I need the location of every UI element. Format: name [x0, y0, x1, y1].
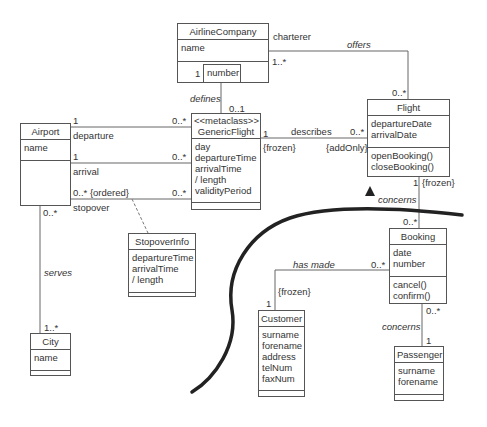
mult-company-defines: 1	[195, 68, 200, 79]
attribute: departureTime	[132, 252, 192, 263]
operation: confirm()	[393, 290, 443, 301]
class-name: Customer	[259, 311, 304, 327]
assoc-name-concerns-flight: concerns	[378, 194, 417, 205]
class-name: Booking	[390, 229, 446, 245]
attribute: address	[262, 351, 301, 362]
attributes-section: day departureTime arrivalTime / length v…	[192, 139, 260, 203]
attribute: / length	[195, 174, 257, 185]
constraint-frozen-concerns: {frozen}	[422, 177, 455, 188]
class-name: GenericFlight	[194, 126, 258, 137]
mult-booking-has-made: 0..*	[371, 259, 385, 270]
attribute: name	[24, 142, 67, 153]
attribute: telNum	[262, 362, 301, 373]
mult-generic-defines: 0..1	[229, 103, 245, 114]
attributes-section: departureTime arrivalTime / length	[129, 250, 195, 293]
operations-section	[395, 395, 443, 399]
attributes-section: name	[31, 350, 70, 371]
stereotype: <<metaclass>>	[194, 115, 258, 126]
mult-company-offers: 1..*	[272, 56, 286, 67]
mult-generic-departure: 0..*	[172, 115, 186, 126]
assoc-name-defines: defines	[190, 93, 221, 104]
attribute: arrivalTime	[195, 163, 257, 174]
operation: openBooking()	[371, 150, 446, 161]
operation: closeBooking()	[371, 161, 446, 172]
attributes-section: name	[178, 40, 268, 62]
mult-airport-serves: 0..*	[43, 207, 57, 218]
mult-airport-arrival: 1	[73, 151, 78, 162]
class-name: Airport	[21, 124, 70, 140]
attribute: faxNum	[262, 373, 301, 384]
attribute: name	[181, 42, 265, 53]
attribute: date	[393, 247, 443, 258]
qualifier-number: number	[203, 64, 241, 83]
class-header: <<metaclass>> GenericFlight	[192, 114, 260, 139]
attribute: number	[393, 258, 443, 269]
attributes-section: date number	[390, 245, 446, 277]
operation: cancel()	[393, 279, 443, 290]
attributes-section: name	[21, 140, 70, 161]
constraint-frozen-describes: {frozen}	[263, 142, 296, 153]
attribute: day	[195, 141, 257, 152]
attribute: forename	[262, 340, 301, 351]
attribute: / length	[132, 274, 192, 285]
mult-flight-describes: 0..*	[350, 126, 364, 137]
attribute: departureTime	[195, 152, 257, 163]
mult-generic-stopover: 0..*	[172, 187, 186, 198]
mult-flight-concerns: 1	[413, 177, 418, 188]
attributes-section: surname forename address telNum faxNum	[259, 327, 304, 391]
assoc-name-describes: describes	[291, 126, 332, 137]
attribute: arrivalTime	[132, 263, 192, 274]
mult-generic-describes: 1	[263, 128, 268, 139]
operations-section	[192, 203, 260, 207]
class-city: City name	[30, 333, 71, 376]
class-name: StopoverInfo	[129, 234, 195, 250]
role-stopover: stopover	[73, 202, 109, 213]
mult-customer-has-made: 1	[266, 298, 271, 309]
class-passenger: Passenger surname forename	[394, 346, 444, 401]
role-charterer: charterer	[273, 31, 311, 42]
class-airport: Airport name	[20, 123, 71, 206]
mult-city-serves: 1..*	[44, 322, 58, 333]
attribute: validityPeriod	[195, 185, 257, 196]
role-departure: departure	[73, 130, 114, 141]
attribute: arrivalDate	[371, 129, 446, 140]
constraint-frozen-has-made: {frozen}	[278, 286, 311, 297]
operations-section: openBooking() closeBooking()	[368, 148, 449, 174]
mult-passenger-concerns: 1	[426, 335, 431, 346]
assoc-name-concerns-passenger: concerns	[382, 321, 421, 332]
class-flight: Flight departureDate arrivalDate openBoo…	[367, 99, 450, 177]
attribute: departureDate	[371, 118, 446, 129]
attribute: surname	[262, 329, 301, 340]
attribute: forename	[398, 376, 440, 387]
class-name: Flight	[368, 100, 449, 116]
attribute: surname	[398, 365, 440, 376]
class-booking: Booking date number cancel() confirm()	[389, 228, 447, 304]
class-stopover-info: StopoverInfo departureTime arrivalTime /…	[128, 233, 196, 297]
constraint-addonly: {addOnly}	[326, 142, 368, 153]
operations-section	[31, 371, 70, 375]
attribute: name	[34, 352, 67, 363]
attributes-section: departureDate arrivalDate	[368, 116, 449, 148]
offers-association-line	[268, 51, 408, 99]
attributes-section: surname forename	[395, 363, 443, 395]
mult-booking-concerns-passenger: 0..*	[426, 305, 440, 316]
operations-section	[129, 293, 195, 297]
direction-triangle-icon	[365, 186, 375, 196]
stopover-info-dashed-link	[132, 199, 148, 233]
mult-airport-departure: 1	[73, 115, 78, 126]
operations-section	[21, 161, 70, 165]
mult-airport-stopover: 0..* {ordered}	[73, 187, 129, 198]
assoc-name-offers: offers	[347, 39, 371, 50]
class-name: Passenger	[395, 347, 443, 363]
role-arrival: arrival	[73, 166, 99, 177]
class-name: City	[31, 334, 70, 350]
class-customer: Customer surname forename address telNum…	[258, 310, 305, 397]
assoc-name-has-made: has made	[293, 259, 335, 270]
mult-booking-concerns: 0..*	[403, 216, 417, 227]
class-name: AirlineCompany	[178, 24, 268, 40]
operations-section: cancel() confirm()	[390, 277, 446, 303]
mult-flight-offers: 0..*	[392, 87, 406, 98]
operations-section	[259, 391, 304, 395]
class-generic-flight: <<metaclass>> GenericFlight day departur…	[191, 113, 261, 210]
assoc-name-serves: serves	[44, 267, 72, 278]
